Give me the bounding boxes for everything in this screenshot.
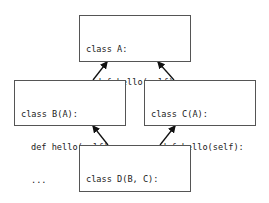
class-b-header: class B(A): — [21, 109, 125, 120]
class-d-box: class D(B, C): def hello(self): ... — [79, 145, 191, 192]
class-c-box: class C(A): def hello(self): ... — [144, 80, 256, 126]
class-a-box: class A: def hello(self): ... — [79, 15, 191, 62]
class-d-header: class D(B, C): — [86, 174, 190, 185]
class-a-header: class A: — [86, 44, 190, 55]
class-b-box: class B(A): def hello(self): ... — [14, 80, 126, 126]
class-c-header: class C(A): — [151, 109, 255, 120]
